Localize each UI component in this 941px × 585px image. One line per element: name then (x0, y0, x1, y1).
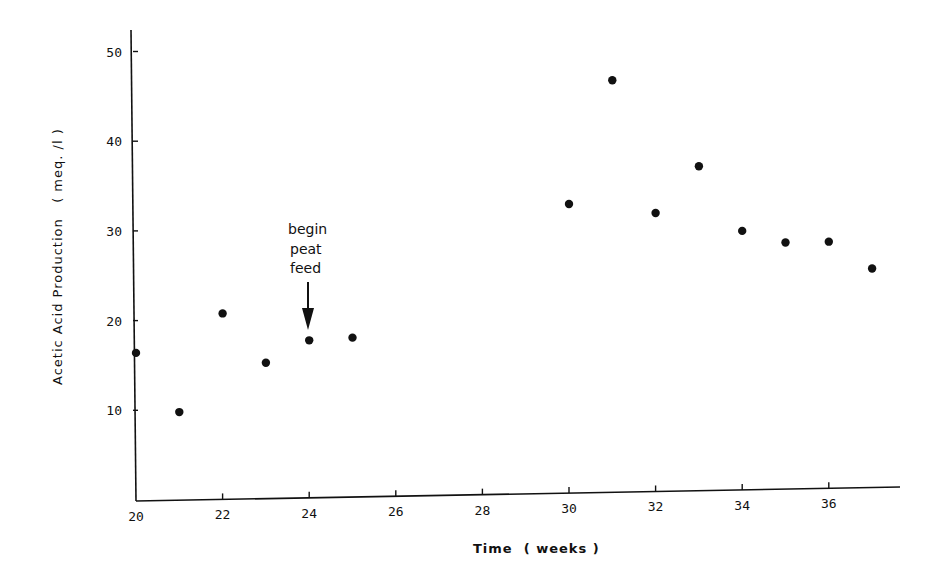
data-point (132, 349, 140, 357)
scatter-chart: 1020304050 202224262830323436 Time ( wee… (0, 0, 941, 585)
y-tick-label: 30 (106, 224, 122, 239)
x-tick-label: 20 (128, 509, 144, 524)
y-axis-line (131, 30, 136, 501)
data-point (825, 237, 833, 245)
data-point (218, 309, 226, 317)
data-points (132, 76, 877, 416)
x-tick-label: 30 (561, 501, 577, 516)
begin-peat-feed-annotation: begin peat feed (288, 221, 327, 330)
data-point (738, 227, 746, 235)
y-tick-label: 50 (106, 45, 122, 60)
data-point (651, 209, 659, 217)
annotation-line-3: feed (290, 260, 321, 276)
x-tick-label: 36 (821, 496, 837, 511)
annotation-line-2: peat (290, 241, 322, 257)
axes (131, 30, 900, 501)
x-tick-label: 34 (734, 498, 750, 513)
x-tick-label: 22 (215, 507, 231, 522)
data-point (781, 238, 789, 246)
arrow-down-icon (302, 308, 314, 330)
y-ticks: 1020304050 (106, 45, 138, 419)
data-point (305, 336, 313, 344)
x-tick-label: 26 (388, 504, 404, 519)
x-tick-label: 24 (301, 506, 317, 521)
data-point (262, 359, 270, 367)
y-axis-title: Acetic Acid Production ( meq. /l ) (50, 128, 65, 385)
y-tick-label: 20 (106, 314, 122, 329)
y-tick-label: 10 (106, 403, 122, 418)
data-point (868, 264, 876, 272)
x-tick-label: 28 (475, 503, 491, 518)
data-point (695, 162, 703, 170)
x-ticks: 202224262830323436 (128, 482, 836, 524)
data-point (175, 408, 183, 416)
annotation-line-1: begin (288, 221, 327, 237)
y-tick-label: 40 (106, 134, 122, 149)
data-point (565, 200, 573, 208)
x-axis-title: Time ( weeks ) (473, 541, 600, 556)
x-tick-label: 32 (648, 499, 664, 514)
x-axis-line (136, 487, 900, 501)
data-point (348, 333, 356, 341)
data-point (608, 76, 616, 84)
